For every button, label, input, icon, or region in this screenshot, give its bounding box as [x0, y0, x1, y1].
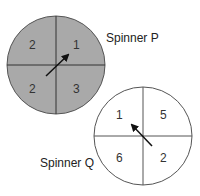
spinner-p-label: Spinner P — [106, 31, 159, 45]
spinner-q-section-bottom-right: 2 — [160, 151, 167, 165]
spinner-q-section-top-left: 1 — [116, 108, 123, 122]
spinner-p-section-bottom-left: 2 — [29, 82, 36, 96]
spinner-p: 2 1 2 3 — [7, 16, 105, 114]
spinner-p-section-top-left: 2 — [29, 38, 36, 52]
spinner-q: 1 5 6 2 — [94, 87, 192, 185]
spinner-p-section-top-right: 1 — [73, 38, 80, 52]
spinner-q-section-top-right: 5 — [160, 108, 167, 122]
spinner-q-label: Spinner Q — [40, 156, 94, 170]
spinners-diagram: 2 1 2 3 Spinner P 1 5 6 2 Spinner Q — [0, 0, 200, 196]
spinner-p-section-bottom-right: 3 — [73, 82, 80, 96]
spinner-q-section-bottom-left: 6 — [116, 151, 123, 165]
